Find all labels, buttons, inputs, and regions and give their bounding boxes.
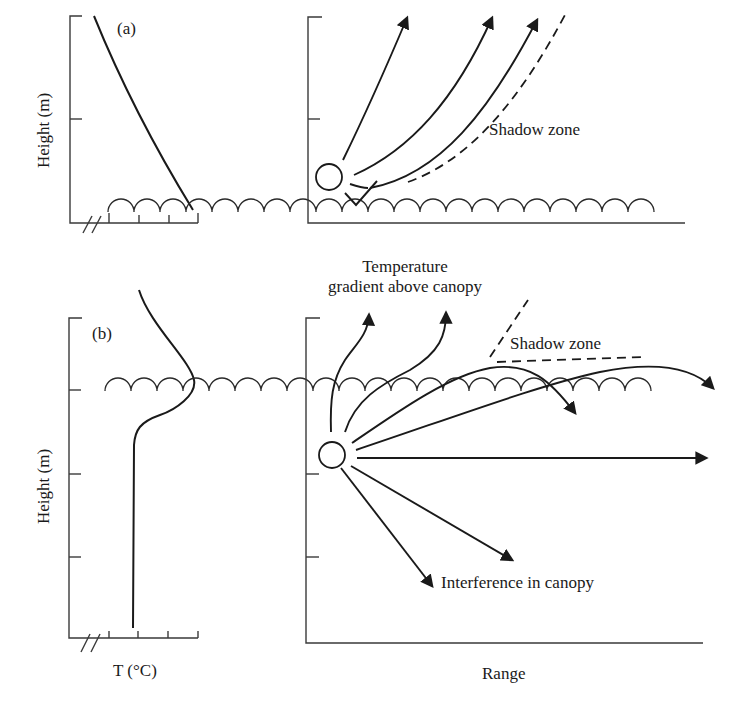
panel-a-temperature-curve (94, 16, 193, 210)
panel-a-label: (a) (117, 20, 136, 37)
panel-b-shadow-boundary-horizontal (497, 357, 643, 362)
panel-b-interference-label: Interference in canopy (441, 574, 594, 591)
panel-b-temperature-gradient-label-line1: Temperature (300, 258, 510, 275)
panel-a (70, 13, 685, 233)
panel-b-ray-up-1 (331, 315, 369, 432)
axis-break-icon (83, 216, 101, 233)
panel-a-shadow-boundary (408, 13, 566, 182)
panel-a-ray-1 (343, 18, 407, 160)
panel-b-y-axis-label: Height (m) (35, 449, 52, 524)
panel-b (69, 290, 713, 652)
panel-a-y-axis-label: Height (m) (35, 93, 52, 168)
panel-a-ground-reflection (345, 181, 377, 205)
axis-break-icon (81, 634, 100, 652)
panel-b-sound-source (319, 442, 345, 468)
panel-a-shadow-zone-label: Shadow zone (489, 121, 580, 138)
panel-b-temperature-gradient-label-line2: gradient above canopy (300, 278, 510, 295)
panel-a-ray-2 (354, 18, 492, 175)
panel-b-ray-arch (352, 367, 575, 443)
panel-b-range-axis-label: Range (482, 665, 525, 682)
diagram-canvas (0, 0, 740, 713)
panel-b-label: (b) (92, 325, 112, 342)
panel-b-temperature-axis-label: T (°C) (113, 662, 157, 679)
panel-b-temperature-curve (133, 290, 194, 628)
panel-a-sound-source (316, 164, 342, 190)
panel-b-shadow-zone-label: Shadow zone (510, 335, 601, 352)
